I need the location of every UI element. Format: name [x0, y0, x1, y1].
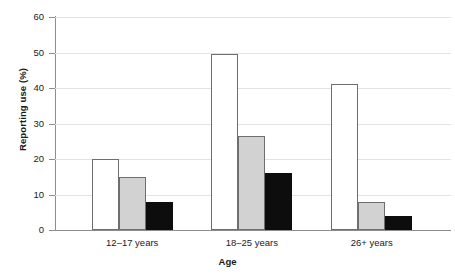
y-axis-tick-label: 40 — [0, 83, 44, 93]
bar — [119, 177, 146, 230]
y-axis-tick-label: 30 — [0, 119, 44, 129]
bar — [265, 173, 292, 230]
plot-area — [55, 17, 451, 230]
bar — [358, 202, 385, 230]
y-axis-tick-label: 10 — [0, 190, 44, 200]
bar — [331, 84, 358, 230]
bar — [238, 136, 265, 230]
y-axis-tick — [49, 53, 55, 54]
y-axis-tick — [49, 230, 55, 231]
y-axis-tick — [49, 17, 55, 18]
x-axis-group-label: 26+ years — [312, 237, 432, 248]
bar — [385, 216, 412, 230]
gridline — [55, 17, 451, 18]
y-axis-tick — [49, 88, 55, 89]
x-axis-line — [55, 230, 451, 231]
y-axis-tick-labels: 6050403020100 — [0, 0, 46, 276]
x-axis-group-label: 18–25 years — [192, 237, 312, 248]
bar — [92, 159, 119, 230]
y-axis-tick — [49, 159, 55, 160]
gridline — [55, 53, 451, 54]
y-axis-tick — [49, 195, 55, 196]
bar — [211, 54, 238, 230]
y-axis-tick — [49, 124, 55, 125]
bar-chart: Reporting use (%) 6050403020100 Age 12–1… — [0, 0, 455, 276]
gridline — [55, 88, 451, 89]
gridline — [55, 124, 451, 125]
x-axis-group-label: 12–17 years — [72, 237, 192, 248]
y-axis-tick-label: 0 — [0, 225, 44, 235]
y-axis-tick-label: 20 — [0, 154, 44, 164]
x-axis-title: Age — [0, 256, 455, 267]
y-axis-tick-label: 60 — [0, 12, 44, 22]
y-axis-tick-label: 50 — [0, 48, 44, 58]
bar — [146, 202, 173, 230]
